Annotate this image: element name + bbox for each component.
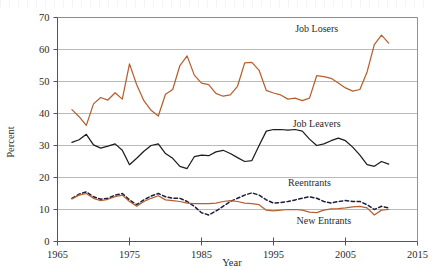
x-axis-title: Year: [222, 257, 242, 268]
series-line-job-leavers: [72, 130, 389, 169]
series-label-reentrants: Reentrants: [288, 177, 331, 188]
series-annotations: Job LosersJob LeaversReentrantsNew Entra…: [288, 23, 351, 226]
grid-lines: [58, 18, 418, 210]
series-line-job-losers: [72, 35, 389, 125]
plot-frame: [58, 18, 418, 242]
series-label-job-losers: Job Losers: [295, 23, 338, 34]
x-tick-label-1965: 1965: [47, 249, 68, 260]
line-chart: 010203040506070 196519751985199520052015…: [0, 0, 432, 270]
y-tick-label-30: 30: [39, 140, 50, 151]
axis-ticks: [54, 18, 418, 246]
y-tick-label-60: 60: [39, 44, 50, 55]
chart-container: 010203040506070 196519751985199520052015…: [0, 0, 432, 270]
y-tick-label-10: 10: [39, 204, 50, 215]
series-label-job-leavers: Job Leavers: [293, 118, 341, 129]
y-tick-label-40: 40: [39, 108, 50, 119]
y-tick-label-20: 20: [39, 172, 50, 183]
x-tick-label-2015: 2015: [407, 249, 428, 260]
data-series: [72, 35, 389, 215]
x-tick-label-1985: 1985: [191, 249, 212, 260]
x-tick-label-1995: 1995: [263, 249, 284, 260]
y-tick-label-0: 0: [44, 236, 49, 247]
series-line-new-entrants: [72, 194, 389, 215]
y-tick-label-70: 70: [39, 12, 50, 23]
y-axis-title: Percent: [5, 126, 16, 158]
series-label-new-entrants: New Entrants: [297, 215, 352, 226]
y-tick-label-50: 50: [39, 76, 50, 87]
x-tick-label-1975: 1975: [119, 249, 140, 260]
y-axis-tick-labels: 010203040506070: [39, 12, 50, 247]
x-tick-label-2005: 2005: [335, 249, 356, 260]
